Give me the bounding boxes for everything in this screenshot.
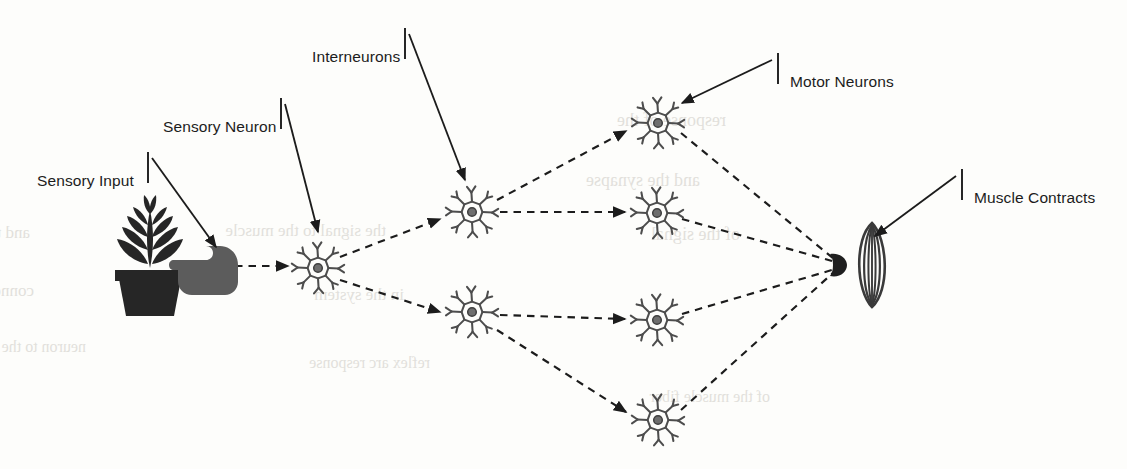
bleed-text: of the signal — [651, 224, 740, 244]
leader-arrow-muscle-contracts — [875, 176, 956, 236]
label-sensory-neuron: Sensory Neuron — [163, 119, 276, 135]
muscle-icon — [859, 223, 885, 307]
label-interneurons: Interneurons — [312, 49, 400, 65]
bleed-text: and the pathway involves — [0, 223, 30, 242]
path-interneuron-lower-to-motor-4 — [497, 330, 626, 412]
bleed-text: neuron to the — [2, 338, 86, 355]
leader-arrow-sensory-neuron — [285, 104, 318, 232]
figure-canvas: and the pathway involvesconnecting later… — [0, 0, 1127, 469]
stimulus-plant-icon — [115, 195, 238, 316]
interneuron-upper-icon — [446, 186, 498, 237]
reflex-arc-diagram: and the pathway involvesconnecting later… — [0, 0, 1127, 469]
page-bleed-through: and the pathway involvesconnecting later… — [0, 110, 770, 405]
bleed-text: reflex arc response — [309, 354, 430, 372]
leader-arrow-interneurons — [409, 34, 465, 180]
path-interneuron-lower-to-motor-3 — [500, 315, 625, 319]
interneuron-lower-icon — [446, 286, 498, 337]
motor-neuron-1-icon — [632, 97, 684, 148]
label-leaders — [148, 28, 962, 247]
motor-neuron-3-icon — [631, 294, 683, 345]
bleed-text: the signal to the muscle — [225, 221, 386, 240]
label-motor-neurons: Motor Neurons — [790, 74, 894, 90]
bleed-text: in the system — [314, 285, 404, 304]
bleed-text: connecting later — [0, 281, 34, 300]
bleed-text: of the muscle fiber — [649, 388, 770, 405]
label-sensory-input: Sensory Input — [37, 173, 134, 189]
label-muscle-contracts: Muscle Contracts — [974, 190, 1095, 206]
path-motor-3-to-synapse — [682, 270, 832, 314]
bleed-text: and the synapse — [586, 170, 700, 190]
leader-arrow-motor-neurons — [682, 60, 772, 103]
synaptic-terminal-icon — [830, 254, 847, 277]
leader-arrow-sensory-input — [152, 158, 216, 247]
